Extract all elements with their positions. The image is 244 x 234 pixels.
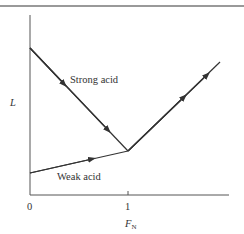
- x-tick-label-1: 1: [125, 202, 130, 213]
- x-axis-label: FN: [125, 219, 136, 231]
- excess-titrant-curve: [128, 62, 220, 151]
- x-tick-label-0: 0: [27, 202, 32, 213]
- strong-acid-curve: [30, 48, 128, 151]
- weak-acid-curve: [30, 151, 128, 173]
- weak-acid-label: Weak acid: [57, 172, 101, 183]
- conductometric-titration-diagram: [0, 0, 244, 234]
- strong-acid-label: Strong acid: [70, 75, 118, 86]
- x-axis-label-subscript: N: [131, 223, 136, 231]
- y-axis-label: L: [10, 98, 16, 109]
